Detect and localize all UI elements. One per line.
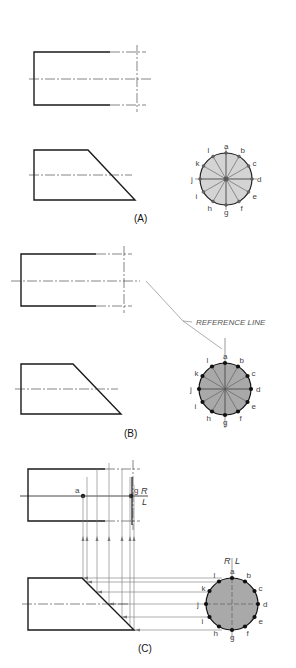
panel-a: (A) [29, 45, 257, 224]
circle-label-g: g [230, 633, 234, 642]
plane-label-r: R [141, 486, 148, 496]
circle-label-d: d [256, 385, 260, 394]
circle-label-g: g [224, 208, 228, 217]
circle-label-h: h [207, 414, 211, 423]
circle-label-g: g [223, 418, 227, 427]
panel-c-front-view [20, 460, 148, 530]
reference-line-label: REFERENCE LINE [196, 318, 266, 327]
circle-label-b: b [241, 146, 246, 155]
circle-label-j: j [189, 385, 192, 394]
circle-label-i: i [201, 617, 203, 626]
circle-label-j: j [190, 175, 193, 184]
circle-label-j: j [196, 600, 199, 609]
circle-label-k: k [194, 369, 199, 378]
panel-a-front-view [29, 45, 152, 112]
panel-b-top-view [15, 364, 121, 414]
circle-label-i: i [195, 192, 197, 201]
point-label-g: g [134, 486, 138, 495]
circle-label-i: i [194, 402, 196, 411]
circle-label-l: l [207, 356, 209, 365]
circle-label-a: a [230, 567, 235, 576]
point-label-a: a [75, 486, 80, 495]
circle-label-h: h [208, 204, 212, 213]
panel-a-top-view [29, 150, 135, 200]
circle-label-l: l [214, 571, 216, 580]
circle-label-a: a [224, 142, 229, 151]
caption-c: (C) [138, 643, 152, 654]
circle-label-d: d [263, 600, 267, 609]
circle-label-e: e [253, 192, 258, 201]
circle-label-b: b [240, 356, 245, 365]
circle-label-c: c [252, 369, 256, 378]
circle-label-k: k [201, 584, 206, 593]
circle-label-f: f [247, 629, 250, 638]
circle-label-l: l [208, 146, 210, 155]
circle-label-e: e [259, 617, 264, 626]
panel-c: a g R L R L (C) [20, 460, 260, 654]
circle-label-c: c [253, 159, 257, 168]
circle-plane-label-r: R [224, 556, 231, 566]
circle-label-f: f [240, 414, 243, 423]
caption-b: (B) [124, 428, 137, 439]
panel-b-front-view [11, 246, 140, 313]
plane-label-l: L [142, 497, 147, 507]
caption-a: (A) [134, 213, 147, 224]
panel-a-end-view-circle [195, 148, 257, 210]
circle-label-k: k [195, 159, 200, 168]
projection-lines [82, 463, 223, 632]
reference-line-callout: REFERENCE LINE [146, 281, 266, 349]
circle-label-b: b [247, 571, 252, 580]
circle-label-f: f [241, 204, 244, 213]
circle-label-e: e [252, 402, 257, 411]
circle-label-d: d [257, 175, 261, 184]
circle-label-a: a [223, 352, 228, 361]
cylinder-truncation-diagram: (A) REFERENCE LINE (B) [0, 0, 296, 668]
circle-label-h: h [214, 629, 218, 638]
circle-label-c: c [259, 584, 263, 593]
circle-plane-label-l: L [235, 556, 240, 566]
panel-b: REFERENCE LINE (B) [11, 246, 266, 439]
